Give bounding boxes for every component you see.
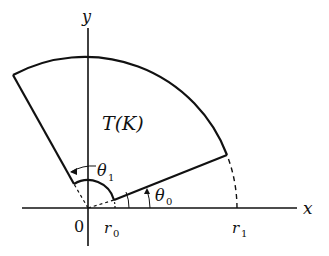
origin-label: 0 — [74, 217, 84, 236]
region-label: T(K) — [102, 112, 144, 134]
r1-label: r — [232, 219, 240, 237]
polar-sector-diagram: y x 0 T(K) r 0 r 1 θ 0 θ 1 — [0, 0, 329, 256]
dashed-ray-end — [74, 184, 88, 208]
dashed-ray-start — [88, 200, 114, 208]
x-axis-label: x — [303, 198, 313, 218]
left-radial-edge — [13, 75, 74, 184]
outer-arc — [13, 57, 227, 155]
inner-arc — [74, 180, 114, 200]
theta1-arrowhead-icon — [70, 168, 77, 175]
r0-subscript: 0 — [113, 228, 119, 239]
y-axis-label: y — [81, 7, 92, 26]
r0-label: r — [104, 219, 112, 237]
theta0-subscript: 0 — [166, 196, 172, 207]
theta1-label: θ — [97, 161, 107, 180]
theta0-arrowhead-icon — [144, 188, 150, 194]
r1-subscript: 1 — [241, 228, 247, 239]
dashed-inner-to-axis — [114, 200, 115, 208]
theta1-subscript: 1 — [108, 172, 114, 183]
dashed-outer-to-axis — [227, 155, 237, 208]
right-radial-edge — [114, 155, 227, 200]
theta0-label: θ — [155, 186, 165, 205]
